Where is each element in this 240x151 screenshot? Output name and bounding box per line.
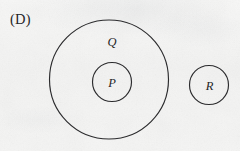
set-label-r: R <box>206 80 214 93</box>
choice-label: (D) <box>10 12 31 27</box>
set-label-p: P <box>108 76 116 89</box>
set-label-q: Q <box>107 36 116 49</box>
euler-diagram-figure: (D) Q P R <box>0 0 240 151</box>
set-circles <box>0 0 240 151</box>
